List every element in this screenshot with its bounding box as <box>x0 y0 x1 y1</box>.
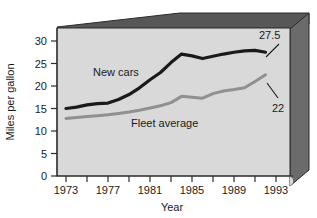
series-label-fleet-average: Fleet average <box>131 117 198 129</box>
y-axis: 0 5 10 15 20 25 30 Miles per gallon <box>4 28 57 182</box>
y-tick-label-10: 10 <box>35 125 47 137</box>
mpg-line-chart: 0 5 10 15 20 25 30 Miles per gallon <box>0 0 317 218</box>
x-tick-marks <box>66 176 276 182</box>
x-tick-label-1993: 1993 <box>264 184 288 196</box>
x-tick-label-1973: 1973 <box>54 184 78 196</box>
y-tick-label-5: 5 <box>41 148 47 160</box>
chart-figure: 0 5 10 15 20 25 30 Miles per gallon <box>0 0 317 218</box>
y-axis-title: Miles per gallon <box>4 63 16 140</box>
y-tick-label-0: 0 <box>41 170 47 182</box>
x-axis: 1973 1977 1981 1985 1989 1993 Year <box>54 176 293 213</box>
series-label-new-cars: New cars <box>93 66 139 78</box>
frame-top-bevel <box>57 13 309 29</box>
y-tick-marks <box>51 41 57 176</box>
y-tick-label-25: 25 <box>35 58 47 70</box>
x-tick-label-1981: 1981 <box>138 184 162 196</box>
y-tick-label-20: 20 <box>35 80 47 92</box>
annotation-label-new-cars: 27.5 <box>259 29 280 41</box>
annotation-label-fleet-average: 22 <box>272 102 284 114</box>
frame-right-bevel <box>290 13 309 186</box>
x-tick-label-1977: 1977 <box>96 184 120 196</box>
x-axis-title: Year <box>161 201 184 213</box>
y-tick-label-30: 30 <box>35 35 47 47</box>
x-tick-label-1985: 1985 <box>180 184 204 196</box>
y-tick-label-15: 15 <box>35 103 47 115</box>
x-tick-label-1989: 1989 <box>222 184 246 196</box>
frame-bottom-lip <box>57 176 293 186</box>
